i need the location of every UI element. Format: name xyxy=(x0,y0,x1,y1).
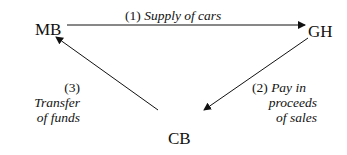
edge-2-number: (2) xyxy=(252,80,268,95)
edge-label-3: (3) Transfer of funds xyxy=(18,80,80,125)
node-mb: MB xyxy=(35,21,61,38)
edge-2-line-1: Pay in xyxy=(271,80,306,95)
edge-2-line-2: proceeds xyxy=(269,95,317,110)
edge-label-1: (1) Supply of cars xyxy=(125,8,221,23)
edge-3-number: (3) xyxy=(64,80,80,95)
edge-label-2: (2) Pay in proceeds of sales xyxy=(252,80,317,125)
edge-2-line-3: of sales xyxy=(276,110,317,125)
edge-3-line-2: of funds xyxy=(37,110,80,125)
node-cb: CB xyxy=(168,130,191,147)
edge-3-line-1: Transfer xyxy=(34,95,80,110)
node-gh: GH xyxy=(308,23,333,40)
edge-1-number: (1) xyxy=(125,8,141,23)
edge-1-text: Supply of cars xyxy=(144,8,221,23)
